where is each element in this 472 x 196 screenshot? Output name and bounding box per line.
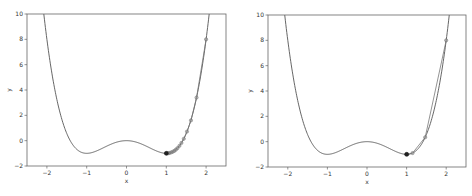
function-curve: [27, 0, 226, 153]
x-axis-label: x: [125, 177, 129, 184]
y-tick-label: −2: [14, 162, 23, 169]
y-tick-label: 10: [15, 10, 23, 17]
left-plot: −2−1012−20246810xy: [0, 0, 236, 196]
x-tick-label: 1: [405, 170, 409, 177]
y-tick-label: 10: [256, 11, 264, 18]
left-chart-svg: −2−1012−20246810xy: [0, 0, 236, 196]
x-tick-label: −1: [82, 169, 91, 176]
y-axis-label: y: [246, 89, 254, 93]
axes-frame: [27, 14, 226, 166]
iterate-path: [166, 39, 206, 153]
iterate-marker: [180, 141, 183, 144]
y-tick-label: 4: [260, 87, 264, 94]
x-tick-label: 0: [365, 170, 369, 177]
y-tick-label: 4: [19, 86, 23, 93]
iterate-marker: [195, 96, 198, 99]
x-tick-label: 0: [125, 169, 129, 176]
x-tick-label: −2: [42, 169, 51, 176]
iterate-marker: [164, 151, 168, 155]
iterate-marker: [205, 38, 208, 41]
function-curve: [268, 0, 466, 154]
axes-frame: [268, 15, 466, 167]
y-tick-label: 2: [19, 111, 23, 118]
iterate-marker: [182, 137, 185, 140]
iterate-marker: [411, 151, 414, 154]
x-tick-label: −2: [283, 170, 292, 177]
y-axis-label: y: [5, 88, 13, 92]
y-tick-label: 8: [260, 36, 264, 43]
y-tick-label: 0: [19, 137, 23, 144]
iterate-marker: [445, 39, 448, 42]
y-tick-label: 0: [260, 138, 264, 145]
iterate-marker: [185, 130, 188, 133]
y-tick-label: 2: [260, 112, 264, 119]
y-tick-label: 6: [19, 61, 23, 68]
y-tick-label: −2: [255, 163, 264, 170]
x-tick-label: 1: [164, 169, 168, 176]
x-tick-label: −1: [323, 170, 332, 177]
iterate-marker: [189, 119, 192, 122]
x-tick-label: 2: [204, 169, 208, 176]
x-axis-label: x: [365, 178, 369, 185]
right-chart-svg: −2−1012−20246810xy: [236, 0, 472, 196]
y-tick-label: 8: [19, 35, 23, 42]
iterate-marker: [405, 152, 409, 156]
right-plot: −2−1012−20246810xy: [236, 0, 472, 196]
y-tick-label: 6: [260, 62, 264, 69]
x-tick-label: 2: [444, 170, 448, 177]
iterate-marker: [424, 136, 427, 139]
